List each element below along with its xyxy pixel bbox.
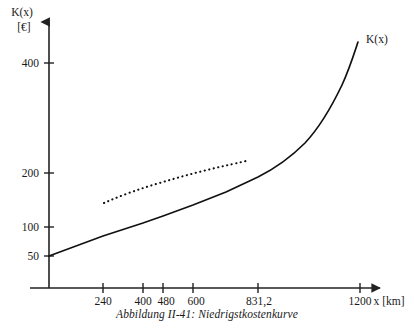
y-tick-label-100: 100 [22, 221, 40, 233]
y-tick-label-50: 50 [28, 250, 40, 262]
dotted-cost-curve [104, 160, 249, 203]
x-axis-title: x [km] [374, 295, 405, 307]
y-tick-label-200: 200 [22, 167, 40, 179]
y-axis-title-line1: K(x) [11, 6, 33, 19]
cost-curve-chart: 400 200 100 50 240 400 480 600 831,2 120… [0, 0, 414, 330]
x-tick-label-1200: 1200 [349, 295, 372, 307]
x-tick-label-400: 400 [134, 295, 152, 307]
figure-caption: Abbildung II-41: Niedrigstkostenkurve [0, 308, 414, 320]
y-tick-label-400: 400 [22, 57, 40, 69]
figure-root: 400 200 100 50 240 400 480 600 831,2 120… [0, 0, 414, 330]
series-label-kx: K(x) [366, 33, 388, 46]
lowest-cost-curve [49, 42, 358, 256]
y-axis-title-line2: [€] [17, 21, 30, 33]
x-tick-label-831-2: 831,2 [246, 295, 272, 308]
x-tick-label-480: 480 [157, 295, 175, 307]
x-tick-label-240: 240 [94, 295, 112, 307]
x-tick-label-600: 600 [187, 295, 205, 307]
